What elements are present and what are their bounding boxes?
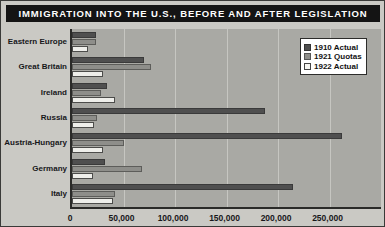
bar-1921-quotas bbox=[72, 191, 115, 197]
legend-swatch-1910-actual bbox=[304, 44, 311, 51]
bar-1910-actual bbox=[72, 32, 96, 38]
bar-group bbox=[72, 105, 381, 130]
x-axis-tick: 200,000 bbox=[261, 213, 292, 223]
bar-1922-actual bbox=[72, 173, 93, 179]
legend-label-1921-quotas: 1921 Quotas bbox=[314, 52, 362, 61]
bar-1922-actual bbox=[72, 198, 113, 204]
bar-1921-quotas bbox=[72, 90, 101, 96]
bar-1922-actual bbox=[72, 97, 115, 103]
legend-item: 1922 Actual bbox=[304, 62, 362, 71]
bar-1921-quotas bbox=[72, 64, 151, 70]
y-axis-label: Germany bbox=[1, 164, 67, 173]
bar-group bbox=[72, 80, 381, 105]
bar-1921-quotas bbox=[72, 140, 124, 146]
bar-1921-quotas bbox=[72, 166, 142, 172]
x-axis-tick: 250,000 bbox=[312, 213, 343, 223]
bar-1921-quotas bbox=[72, 115, 97, 121]
legend-swatch-1922-actual bbox=[304, 63, 311, 70]
chart-area: Eastern EuropeGreat BritainIrelandRussia… bbox=[1, 23, 385, 227]
bar-1910-actual bbox=[72, 83, 107, 89]
chart-title-bar: IMMIGRATION INTO THE U.S., BEFORE AND AF… bbox=[6, 5, 380, 22]
bar-1910-actual bbox=[72, 159, 105, 165]
y-axis-label: Italy bbox=[1, 189, 67, 198]
bar-group bbox=[72, 131, 381, 156]
chart-figure: IMMIGRATION INTO THE U.S., BEFORE AND AF… bbox=[0, 0, 385, 227]
bar-1922-actual bbox=[72, 46, 88, 52]
y-axis-label: Austria-Hungary bbox=[1, 138, 67, 147]
x-axis-tick: 50,000 bbox=[109, 213, 135, 223]
y-axis-label: Great Britain bbox=[1, 62, 67, 71]
y-axis-label: Russia bbox=[1, 113, 67, 122]
x-axis-tick: 100,000 bbox=[158, 213, 189, 223]
bar-1910-actual bbox=[72, 184, 293, 190]
bar-1910-actual bbox=[72, 133, 342, 139]
bar-group bbox=[72, 156, 381, 181]
y-axis-label: Eastern Europe bbox=[1, 37, 67, 46]
bar-1922-actual bbox=[72, 122, 94, 128]
bar-1910-actual bbox=[72, 57, 144, 63]
page-title: IMMIGRATION INTO THE U.S., BEFORE AND AF… bbox=[18, 8, 367, 19]
legend-label-1922-actual: 1922 Actual bbox=[314, 62, 358, 71]
chart-legend: 1910 Actual 1921 Quotas 1922 Actual bbox=[300, 38, 367, 75]
bar-1922-actual bbox=[72, 71, 103, 77]
bar-1921-quotas bbox=[72, 39, 96, 45]
legend-item: 1921 Quotas bbox=[304, 52, 362, 61]
x-axis-tick: 0 bbox=[68, 213, 73, 223]
legend-item: 1910 Actual bbox=[304, 43, 362, 52]
legend-swatch-1921-quotas bbox=[304, 53, 311, 60]
legend-label-1910-actual: 1910 Actual bbox=[314, 43, 358, 52]
bar-1910-actual bbox=[72, 108, 265, 114]
bar-group bbox=[72, 182, 381, 207]
bar-1922-actual bbox=[72, 147, 103, 153]
y-axis-label: Ireland bbox=[1, 88, 67, 97]
x-axis-tick: 150,000 bbox=[209, 213, 240, 223]
